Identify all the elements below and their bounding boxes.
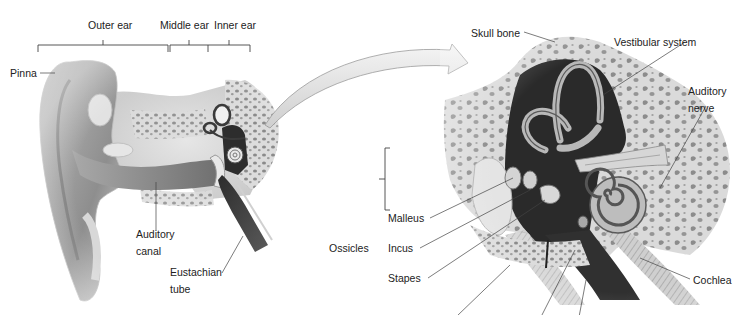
label-eustachian-line1: Eustachian: [170, 266, 222, 278]
label-ossicles: Ossicles: [329, 242, 369, 254]
detail-ear-illustration: [440, 30, 740, 315]
ear-anatomy-diagram: Outer ear Middle ear Inner ear Pinna Aud…: [0, 0, 741, 315]
overview-ear-illustration: [30, 60, 280, 315]
label-auditory-nerve-line2: nerve: [688, 102, 714, 114]
label-outer-ear: Outer ear: [88, 19, 132, 31]
zoom-arrow: [265, 44, 468, 128]
region-brackets: [38, 40, 250, 52]
label-malleus: Malleus: [388, 212, 424, 224]
label-cochlea: Cochlea: [693, 274, 732, 286]
label-eustachian-line2: tube: [170, 283, 190, 295]
label-stapes: Stapes: [388, 272, 421, 284]
label-auditory-canal-line1: Auditory: [136, 228, 175, 240]
label-skull-bone: Skull bone: [471, 27, 520, 39]
ossicles-bracket: [379, 148, 390, 210]
label-pinna: Pinna: [10, 67, 37, 79]
label-auditory-canal-line2: canal: [136, 245, 161, 257]
label-middle-ear: Middle ear: [160, 19, 209, 31]
label-auditory-nerve-line1: Auditory: [688, 85, 727, 97]
label-inner-ear: Inner ear: [214, 19, 256, 31]
label-incus: Incus: [388, 242, 413, 254]
label-vestibular-system: Vestibular system: [614, 36, 696, 48]
